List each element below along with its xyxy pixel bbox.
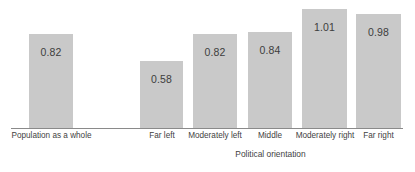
bar-value-label: 0.84 (248, 44, 292, 56)
bar-value-label: 1.01 (302, 21, 347, 33)
bar-value-label: 0.82 (29, 46, 73, 58)
x-axis-line (11, 128, 403, 129)
bar-slot (86, 0, 130, 129)
bar-slot: 0.82 (29, 0, 73, 129)
bar-value-label: 0.82 (193, 46, 237, 58)
x-tick-label: Middle (246, 130, 294, 142)
bar-slot: 0.84 (248, 0, 292, 129)
bar-slot: 1.01 (302, 0, 347, 129)
plot-area: 0.820.580.820.841.010.98 (0, 0, 415, 129)
bar-slot: 0.82 (193, 0, 237, 129)
x-tick-label: Moderately left (185, 130, 245, 142)
bar[interactable] (140, 61, 183, 129)
x-axis-title: Political orientation (0, 148, 415, 160)
x-tick-label: Moderately right (292, 130, 358, 142)
bar-chart: 0.820.580.820.841.010.98 Population as a… (0, 0, 415, 172)
x-tick-label: Far right (352, 130, 405, 142)
x-tick-label: Population as a whole (8, 130, 95, 142)
bar-value-label: 0.58 (140, 73, 183, 85)
x-tick-label: Far left (136, 130, 188, 142)
x-axis-title-text: Political orientation (235, 148, 305, 160)
bar-slot: 0.98 (356, 0, 401, 129)
x-axis-tick-labels: Population as a wholeFar leftModerately … (0, 130, 415, 144)
bar-value-label: 0.98 (356, 26, 401, 38)
bar-slot: 0.58 (140, 0, 183, 129)
